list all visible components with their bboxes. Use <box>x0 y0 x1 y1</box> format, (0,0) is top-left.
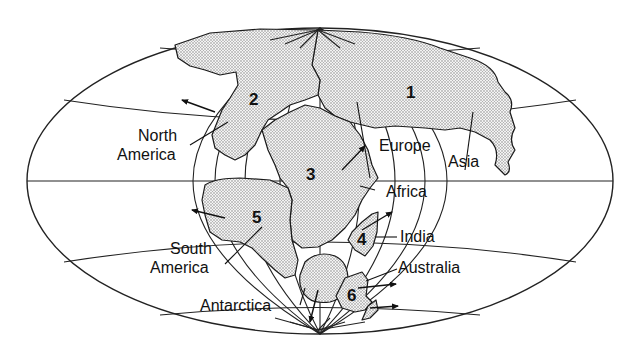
arrow-north-america <box>182 100 215 112</box>
landmass-south-america <box>202 178 298 278</box>
label-north: North <box>138 127 177 144</box>
label-south-america: America <box>150 259 209 276</box>
plate-number-1: 1 <box>406 83 415 102</box>
plate-number-2: 2 <box>249 90 258 109</box>
label-australia: Australia <box>398 259 460 276</box>
plate-number-5: 5 <box>252 208 261 227</box>
label-north-america: America <box>117 146 176 163</box>
label-south: South <box>170 240 212 257</box>
label-africa: Africa <box>386 183 427 200</box>
plate-number-3: 3 <box>306 165 315 184</box>
landmasses <box>175 29 515 320</box>
label-antarctica: Antarctica <box>200 297 271 314</box>
label-europe: Europe <box>379 137 431 154</box>
plate-number-6: 6 <box>347 286 356 305</box>
plate-number-4: 4 <box>357 230 367 249</box>
label-asia: Asia <box>448 153 479 170</box>
label-india: India <box>400 228 435 245</box>
pangaea-map: 2 1 3 5 4 6 North America Europe Asia Af… <box>0 0 630 361</box>
